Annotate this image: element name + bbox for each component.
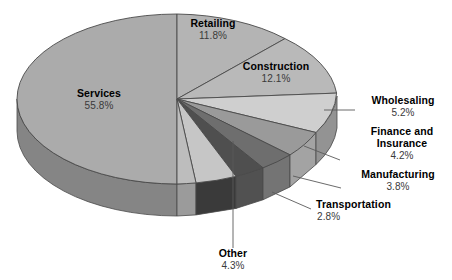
label-transportation-name: Transportation	[316, 199, 452, 211]
leader-line-manufacturing	[293, 176, 341, 188]
label-manufacturing-value: 3.8%	[344, 181, 452, 192]
label-retailing-name: Retailing	[168, 18, 258, 30]
label-retailing-value: 11.8%	[168, 30, 258, 41]
label-manufacturing: Manufacturing 3.8%	[344, 169, 452, 192]
label-construction: Construction 12.1%	[222, 61, 330, 84]
label-retailing: Retailing 11.8%	[168, 18, 258, 41]
label-other-value: 4.3%	[195, 260, 271, 271]
label-finance-value: 4.2%	[352, 150, 452, 161]
label-manufacturing-name: Manufacturing	[344, 169, 452, 181]
label-finance-name-line1: Finance and	[352, 126, 452, 138]
label-services-value: 55.8%	[53, 100, 145, 111]
leader-line-transportation	[272, 192, 311, 209]
label-services: Services 55.8%	[53, 88, 145, 111]
label-wholesaling: Wholesaling 5.2%	[354, 95, 452, 118]
label-transportation: Transportation 2.8%	[316, 199, 452, 222]
label-construction-value: 12.1%	[222, 73, 330, 84]
label-construction-name: Construction	[222, 61, 330, 73]
label-wholesaling-value: 5.2%	[354, 107, 452, 118]
label-services-name: Services	[53, 88, 145, 100]
label-wholesaling-name: Wholesaling	[354, 95, 452, 107]
label-finance-and-insurance: Finance and Insurance 4.2%	[352, 126, 452, 161]
label-finance-name-line2: Insurance	[352, 138, 452, 150]
label-transportation-value: 2.8%	[316, 211, 452, 222]
label-other-name: Other	[195, 248, 271, 260]
side-wall-other	[177, 183, 196, 216]
label-other: Other 4.3%	[195, 248, 271, 271]
pie-chart: Retailing 11.8% Construction 12.1% Servi…	[0, 0, 452, 280]
